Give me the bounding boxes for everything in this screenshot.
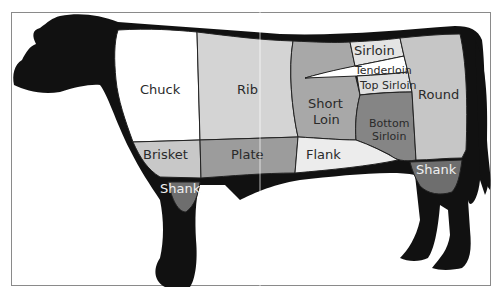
label-fore-shank: Shank <box>160 181 201 196</box>
label-short-loin-1: Short <box>308 96 343 111</box>
label-hind-shank: Shank <box>416 162 457 177</box>
label-short-loin-2: Loin <box>313 112 340 127</box>
label-chuck: Chuck <box>140 82 181 97</box>
beef-cuts-diagram: Chuck Rib Short Loin Sirloin Tenderloin … <box>0 0 503 297</box>
label-brisket: Brisket <box>143 147 188 162</box>
label-round: Round <box>418 87 459 102</box>
label-flank: Flank <box>306 147 341 162</box>
label-bottom-sirloin-2: Sirloin <box>372 130 406 143</box>
label-sirloin: Sirloin <box>354 43 395 58</box>
label-bottom-sirloin-1: Bottom <box>369 117 409 130</box>
label-tenderloin: Tenderloin <box>354 64 412 77</box>
label-top-sirloin: Top Sirloin <box>359 79 416 92</box>
label-rib: Rib <box>237 82 258 97</box>
image-seam <box>259 12 261 286</box>
